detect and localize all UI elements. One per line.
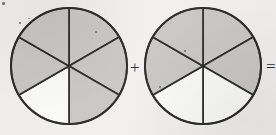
scan-speck [2,2,5,5]
pie-chart-circle-2 [145,8,261,124]
figure-canvas: + = [0,0,276,135]
scan-speck [184,50,186,52]
pie-chart-circle-1 [11,8,127,124]
plus-operator: + [130,59,140,76]
equals-operator: = [266,58,276,75]
scan-speck [67,67,69,69]
scan-speck [19,22,21,24]
scan-speck [95,31,97,33]
scan-speck [159,86,161,88]
